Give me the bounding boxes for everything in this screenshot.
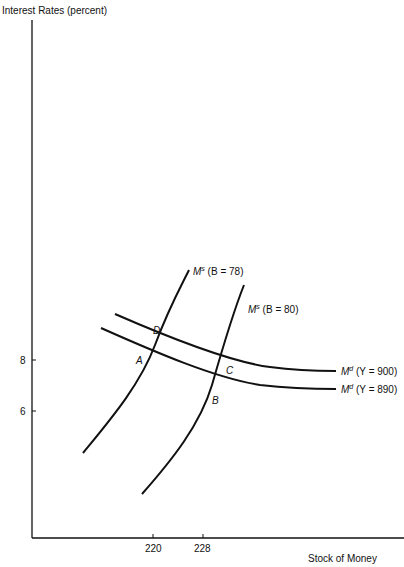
- x-tick-label-220: 220: [145, 543, 162, 554]
- y-tick-label-8: 8: [20, 355, 26, 366]
- md-y900-label: Md (Y = 900): [341, 365, 397, 377]
- point-label-b: B: [212, 395, 219, 406]
- md-y890-label: Md (Y = 890): [341, 383, 397, 395]
- x-tick-label-228: 228: [194, 543, 211, 554]
- money-market-chart: Interest Rates (percent) Stock of Money …: [0, 0, 404, 567]
- y-tick-label-6: 6: [20, 406, 26, 417]
- ms-b78-label: Ms (B = 78): [193, 265, 243, 277]
- point-label-d: D: [153, 325, 160, 336]
- y-axis-label: Interest Rates (percent): [2, 5, 107, 16]
- x-axis-label: Stock of Money: [308, 553, 377, 564]
- point-label-c: C: [226, 365, 234, 376]
- ms-b80-curve: [142, 285, 244, 494]
- ms-b80-label: Ms (B = 80): [248, 303, 298, 315]
- point-label-a: A: [135, 355, 143, 366]
